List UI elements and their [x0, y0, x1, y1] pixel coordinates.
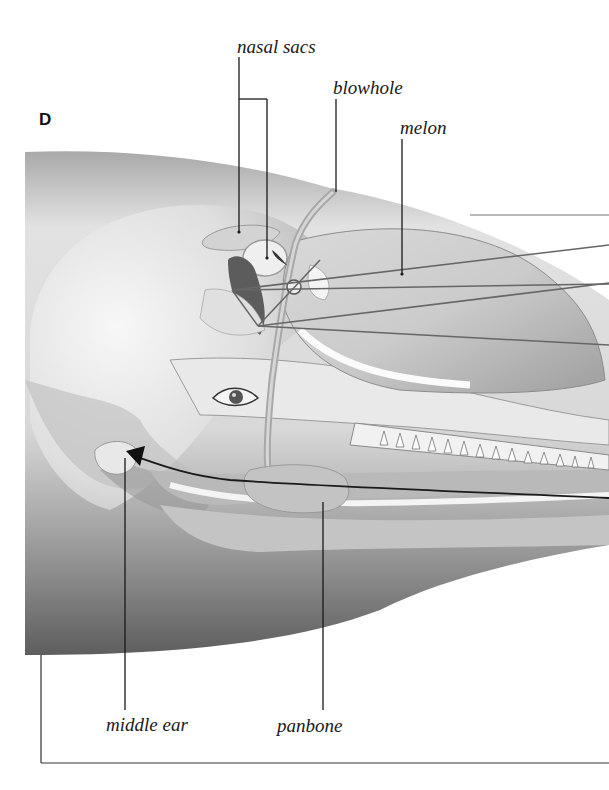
- label-melon: melon: [400, 118, 446, 137]
- panel-letter: D: [39, 111, 51, 128]
- label-middle-ear: middle ear: [106, 715, 188, 734]
- label-nasal-sacs: nasal sacs: [237, 37, 316, 56]
- dolphin-head-diagram: D nasal sacs blowhole melon middle ear p…: [0, 0, 609, 790]
- diagram-illustration: [0, 0, 609, 790]
- label-panbone: panbone: [277, 716, 342, 735]
- label-blowhole: blowhole: [333, 78, 403, 97]
